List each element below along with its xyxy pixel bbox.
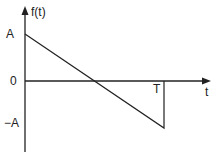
x-tick-t-period: T [153,83,160,95]
y-tick-zero: 0 [10,75,17,87]
y-tick-minus-a: −A [4,117,19,129]
x-axis-label: t [205,86,208,98]
x-axis-arrow-icon [202,78,211,85]
y-axis-arrow-icon [22,6,29,15]
y-axis-label: f(t) [31,6,46,18]
y-tick-a: A [6,28,14,40]
waveform-diagram [0,0,215,160]
